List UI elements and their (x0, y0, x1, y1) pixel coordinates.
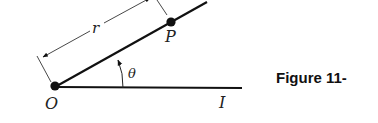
radius-label: r (92, 19, 100, 37)
angle-label: θ (128, 66, 136, 81)
radius-dimension-arrow-left (43, 31, 90, 57)
dimension-tick-point (157, 0, 167, 15)
origin-point (50, 81, 59, 90)
polar-coordinates-diagram: r θ P O I (0, 0, 378, 123)
dimension-tick-origin (37, 56, 51, 82)
figure-caption: Figure 11- (276, 69, 347, 86)
origin-label: O (45, 94, 58, 113)
angle-arc (118, 60, 123, 88)
point-p (166, 17, 175, 26)
point-p-label: P (164, 27, 176, 46)
initial-ray (55, 87, 242, 88)
radius-dimension-arrow-right (104, 0, 150, 23)
initial-ray-label: I (218, 93, 226, 112)
